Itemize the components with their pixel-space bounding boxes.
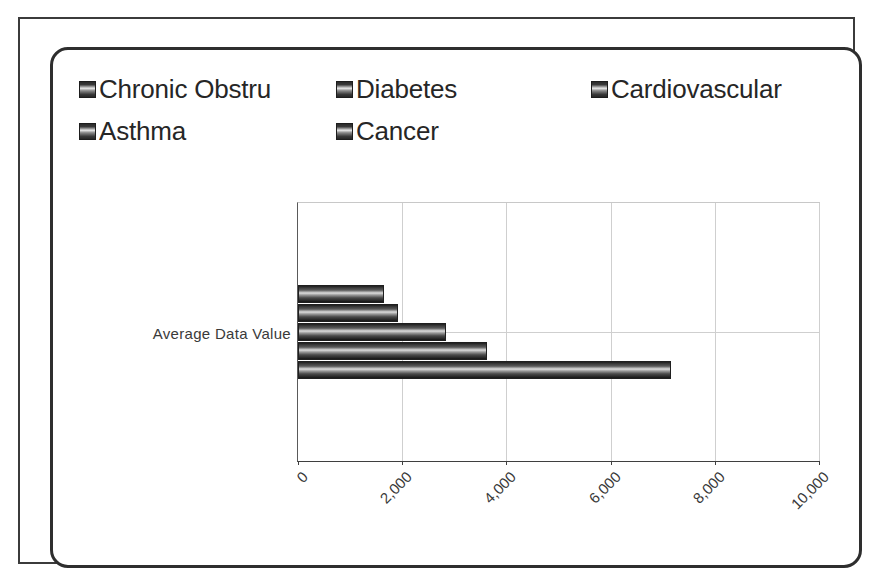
bar-cancer[interactable] [298, 361, 671, 379]
tickmark [506, 461, 507, 465]
legend-item-cardiovascular[interactable]: Cardiovascular [591, 76, 782, 102]
bar-asthma[interactable] [298, 342, 487, 360]
legend-swatch-icon [79, 123, 96, 140]
tickmark [819, 461, 820, 465]
legend-item-cancer[interactable]: Cancer [336, 118, 439, 144]
bar-chronic-obstru[interactable] [298, 285, 384, 303]
legend-item-chronic-obstru[interactable]: Chronic Obstru [79, 76, 271, 102]
legend-swatch-icon [79, 81, 96, 98]
category-axis-label: Average Data Value [113, 325, 291, 342]
legend-swatch-icon [591, 81, 608, 98]
chart-legend: Chronic Obstru Diabetes Cardiovascular A… [53, 50, 859, 160]
legend-item-asthma[interactable]: Asthma [79, 118, 186, 144]
plot-area [297, 202, 820, 462]
legend-swatch-icon [336, 81, 353, 98]
outer-frame: Chronic Obstru Diabetes Cardiovascular A… [18, 17, 855, 564]
bar-series-group [298, 203, 819, 461]
legend-item-label: Cancer [356, 118, 439, 144]
legend-item-label: Asthma [99, 118, 186, 144]
tickmark [402, 461, 403, 465]
legend-swatch-icon [336, 123, 353, 140]
legend-item-label: Chronic Obstru [99, 76, 271, 102]
x-tick-label: 6,000 [527, 468, 624, 565]
chart-panel: Chronic Obstru Diabetes Cardiovascular A… [50, 47, 862, 568]
legend-item-label: Diabetes [356, 76, 457, 102]
x-tick-label: 10,000 [735, 468, 832, 565]
legend-item-label: Cardiovascular [611, 76, 782, 102]
x-tick-label: 2,000 [318, 468, 415, 565]
bar-cardiovascular[interactable] [298, 323, 446, 341]
legend-item-diabetes[interactable]: Diabetes [336, 76, 457, 102]
tickmark [715, 461, 716, 465]
gridline-vertical [819, 203, 820, 461]
x-tick-label: 8,000 [631, 468, 728, 565]
tickmark [611, 461, 612, 465]
bar-diabetes[interactable] [298, 304, 398, 322]
x-tick-label: 0 [214, 468, 311, 565]
tickmark [298, 461, 299, 465]
x-tick-label: 4,000 [423, 468, 520, 565]
